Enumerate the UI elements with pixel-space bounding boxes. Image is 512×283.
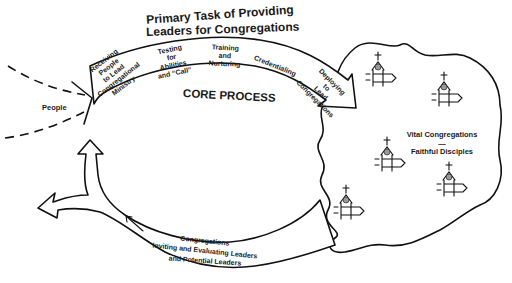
- step-line: Nurturing: [208, 59, 240, 69]
- core-process-label: CORE PROCESS: [183, 87, 276, 104]
- step-line: and: [219, 52, 232, 60]
- people-inflow-dashed-lower: [5, 112, 84, 138]
- people-inflow-dashed-upper: [8, 66, 85, 95]
- congregations-region: [318, 43, 502, 252]
- leadership-core-process-diagram: Primary Task of Providing Leaders for Co…: [0, 0, 512, 283]
- outcome-line-2: Faithful Disciples: [411, 147, 473, 156]
- outcome-line-1: Vital Congregations: [407, 130, 478, 139]
- people-label: People: [42, 103, 67, 112]
- intake-v-mark: [72, 82, 92, 124]
